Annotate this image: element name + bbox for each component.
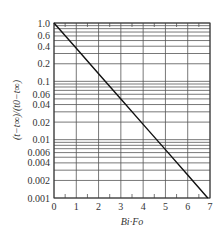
y-tick-label: 0.2	[38, 58, 51, 69]
y-tick-label: 0.4	[38, 41, 51, 52]
chart: 1.00.60.40.20.10.060.040.020.010.0060.00…	[0, 0, 223, 238]
x-tick-label: 0	[52, 201, 57, 212]
x-tick-label: 5	[163, 201, 168, 212]
y-axis-tick-labels: 1.00.60.40.20.10.060.040.020.010.0060.00…	[28, 18, 51, 204]
y-tick-label: 0.001	[28, 193, 51, 204]
y-tick-label: 0.04	[33, 99, 51, 110]
y-tick-label: 0.1	[38, 76, 51, 87]
x-tick-label: 1	[74, 201, 79, 212]
data-series	[54, 23, 208, 198]
y-tick-label: 1.0	[38, 18, 51, 29]
y-tick-label: 0.01	[33, 134, 51, 145]
y-tick-label: 0.004	[28, 157, 51, 168]
x-axis-title: Bi·Fo	[121, 216, 144, 227]
x-tick-label: 6	[185, 201, 190, 212]
y-axis-title: (t−t∞)/(t0−t∞)	[11, 79, 23, 140]
x-tick-label: 2	[96, 201, 101, 212]
x-axis-tick-labels: 01234567	[52, 201, 213, 212]
y-tick-label: 0.02	[33, 117, 51, 128]
x-tick-label: 7	[208, 201, 213, 212]
x-tick-label: 3	[118, 201, 123, 212]
x-tick-label: 4	[141, 201, 146, 212]
y-tick-label: 0.002	[28, 175, 51, 186]
series-line	[54, 23, 208, 198]
